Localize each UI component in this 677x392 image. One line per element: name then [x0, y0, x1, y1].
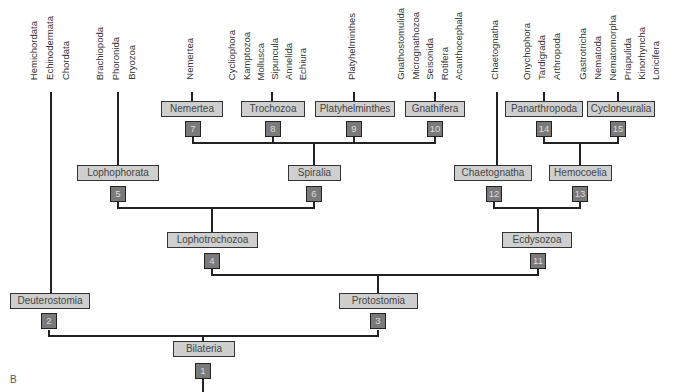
node-number: 12 [486, 186, 502, 202]
taxon-label: Gastrotricha [578, 28, 588, 80]
node-number: 8 [265, 121, 281, 137]
node-number: 6 [306, 186, 322, 202]
node-number: 13 [572, 186, 588, 202]
taxon-label: Seisonida [425, 38, 435, 80]
node-number: 15 [610, 121, 626, 137]
taxon-label: Arthropoda [552, 33, 562, 80]
clade-box: Cycloneuralia [587, 101, 655, 117]
taxon-label: Rotifera [440, 47, 450, 80]
panel-label: B [10, 374, 17, 385]
node-number: 5 [110, 186, 126, 202]
taxon-label: Nematomorpha [608, 15, 618, 80]
clade-box: Nemertea [161, 101, 223, 117]
taxon-label: Onychophora [522, 23, 532, 80]
node-number: 11 [530, 253, 546, 269]
taxon-label: Micrognathozoa [411, 12, 421, 80]
clade-box: Gnathifera [405, 101, 465, 117]
node-number: 14 [536, 121, 552, 137]
taxon-label: Loricifera [651, 41, 661, 80]
taxon-label: Kinorhyncha [637, 27, 647, 80]
branch-line [49, 330, 378, 336]
clade-box: Deuterostomia [10, 293, 90, 309]
taxon-label: Tardigrada [537, 35, 547, 80]
clade-box: Bilateria [173, 341, 235, 357]
taxon-label: Phoronida [111, 37, 121, 80]
branch-line [118, 202, 314, 208]
branch-line [544, 137, 618, 143]
taxon-label: Echinodermata [45, 16, 55, 80]
taxon-label: Nemertea [185, 38, 195, 80]
clade-box: Trochozoa [241, 101, 305, 117]
clade-box: Ecdysozoa [502, 232, 572, 248]
taxon-label: Platyhelminthes [347, 13, 357, 80]
taxon-label: Cycliophora [227, 30, 237, 80]
clade-box: Protostomia [339, 293, 418, 309]
taxon-label: Priapulida [623, 38, 633, 80]
clade-box: Lophophorata [77, 165, 159, 181]
clade-box: Lophotrochozoa [167, 232, 258, 248]
branch-line [212, 269, 538, 275]
branch-line [193, 137, 435, 143]
node-number: 7 [185, 121, 201, 137]
clade-box: Hemocoelia [549, 165, 612, 181]
taxon-label: Nematoda [593, 36, 603, 80]
taxon-label: Bryozoa [127, 45, 137, 80]
clade-box: Panarthropoda [505, 101, 583, 117]
node-number: 10 [427, 121, 443, 137]
taxon-label: Hemichordata [29, 21, 39, 80]
node-number: 2 [41, 313, 57, 329]
node-number: 3 [370, 313, 386, 329]
taxon-label: Mollusca [256, 43, 266, 81]
clade-box: Platyhelminthes [315, 101, 395, 117]
branch-line [494, 202, 580, 208]
taxon-label: Annelida [284, 43, 294, 80]
taxon-label: Gnathostomulida [396, 8, 406, 80]
taxon-label: Sipuncula [270, 38, 280, 80]
taxon-label: Chordata [61, 41, 71, 80]
taxon-label: Chaetognatha [490, 20, 500, 80]
node-number: 1 [195, 363, 211, 379]
node-number: 4 [204, 253, 220, 269]
taxon-label: Acanthocephala [454, 12, 464, 80]
clade-box: Chaetognatha [454, 165, 532, 181]
node-number: 9 [346, 121, 362, 137]
taxon-label: Echiura [298, 48, 308, 80]
phylogenetic-tree: HemichordataEchinodermataChordataBrachio… [0, 0, 677, 392]
taxon-label: Brachiopoda [95, 27, 105, 80]
clade-box: Spiralia [288, 165, 341, 181]
taxon-label: Kamptozoa [242, 32, 252, 80]
